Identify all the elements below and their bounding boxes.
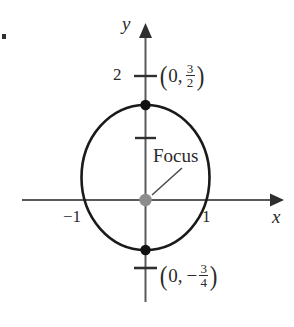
x-coordinate-zero: 0 [168, 266, 178, 285]
fraction-three-halves: 3 2 [186, 62, 195, 90]
fraction-numerator: 3 [186, 62, 195, 75]
ellipse-figure: y x 2 −1 1 Focus ( 0 , 3 2 ) ( 0 , − 3 4… [0, 0, 294, 327]
focus-dot [139, 194, 151, 206]
fraction-denominator: 2 [186, 76, 195, 89]
focus-leader-line [152, 168, 182, 195]
coordinate-label-top-vertex: ( 0 , 3 2 ) [159, 62, 205, 90]
right-paren: ) [210, 265, 218, 287]
x-coordinate-zero: 0 [168, 66, 178, 85]
focus-text-label: Focus [153, 146, 198, 165]
coordinate-comma: , [178, 266, 183, 285]
x-tick-label-one: 1 [202, 208, 211, 225]
right-paren: ) [196, 65, 204, 87]
vertex-dot-top [140, 100, 150, 110]
y-axis-label: y [122, 14, 130, 33]
plot-canvas [0, 0, 294, 327]
left-paren: ( [160, 65, 168, 87]
minus-sign: − [187, 266, 198, 285]
fraction-three-fourths: 3 4 [199, 262, 208, 290]
fraction-numerator: 3 [200, 262, 209, 275]
left-paren: ( [160, 265, 168, 287]
coordinate-comma: , [178, 66, 183, 85]
y-tick-label-2: 2 [113, 66, 122, 83]
y-axis-arrowhead [139, 23, 152, 38]
vertex-dot-bottom [140, 245, 150, 255]
x-tick-label-negative-one: −1 [63, 208, 81, 225]
x-axis-arrowhead [270, 194, 284, 207]
x-axis-label: x [272, 207, 280, 226]
fraction-denominator: 4 [200, 276, 209, 289]
coordinate-label-bottom-vertex: ( 0 , − 3 4 ) [159, 262, 219, 290]
